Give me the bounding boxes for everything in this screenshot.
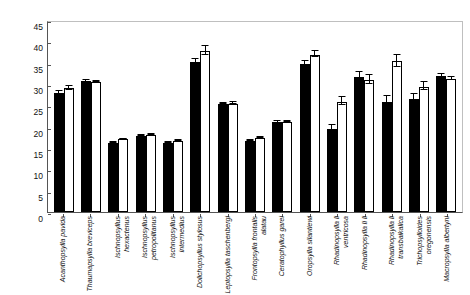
error-bar-cap-top <box>328 124 335 125</box>
plot-area: 051015202530354045 <box>47 21 463 213</box>
error-bar <box>92 80 99 83</box>
error-bar <box>202 45 209 54</box>
bar-group <box>323 22 350 212</box>
error-bar <box>328 124 335 133</box>
x-axis-label: Thaumapsylla breviceps <box>86 216 95 294</box>
y-axis-tick-mark <box>48 86 51 87</box>
error-bar-cap-bottom <box>256 137 263 138</box>
bar-group <box>433 22 460 212</box>
bar-white <box>228 104 238 212</box>
y-axis-tick-mark <box>48 107 51 108</box>
error-bar-cap-bottom <box>219 103 226 104</box>
y-axis-tick-mark <box>48 193 51 194</box>
bar-group <box>214 22 241 212</box>
error-bar <box>229 101 236 104</box>
x-axis-label-cell: Dolichopsyllus stylosus <box>186 214 213 295</box>
error-bar-stem <box>396 54 397 68</box>
x-axis-label-cell: Ischnopsyllus hexactenus <box>104 214 131 295</box>
bar-group <box>351 22 378 212</box>
error-bar <box>164 141 171 143</box>
error-bar-cap-bottom <box>147 134 154 135</box>
bar-group <box>159 22 186 212</box>
error-bar-cap-bottom <box>137 135 144 136</box>
error-bar-cap-bottom <box>229 103 236 104</box>
error-bar-cap-top <box>65 85 72 86</box>
error-bar-cap-bottom <box>82 81 89 82</box>
x-axis-label-cell: Ceratophyllus garei <box>269 214 296 295</box>
bar-white <box>255 138 265 212</box>
x-axis-label: Rhadinopsylla li li <box>361 216 370 294</box>
bar-black <box>327 129 337 212</box>
error-bar-cap-bottom <box>383 107 390 108</box>
error-bar <box>393 54 400 68</box>
error-bar <box>120 138 127 140</box>
bar-group <box>378 22 405 212</box>
error-bar <box>338 96 345 105</box>
bar-black <box>245 141 255 212</box>
bar-black <box>436 76 446 212</box>
bar-black <box>108 143 118 212</box>
x-axis-label-cell: Frontopsylla frontalis alatau <box>241 214 268 295</box>
error-bar-cap-bottom <box>174 140 181 141</box>
error-bar-cap-top <box>448 76 455 77</box>
bar-black <box>272 122 282 212</box>
x-axis-label-cell: Oropsylla silantiewi <box>296 214 323 295</box>
error-bar-cap-bottom <box>65 89 72 90</box>
bar-group <box>269 22 296 212</box>
error-bar <box>65 85 72 90</box>
error-bar-cap-bottom <box>328 132 335 133</box>
bar-white <box>392 61 402 212</box>
error-bar-cap-bottom <box>164 142 171 143</box>
error-bar-cap-bottom <box>301 66 308 67</box>
error-bar-cap-top <box>438 73 445 74</box>
error-bar <box>256 136 263 139</box>
x-axis-label: Trichopsylloides oregonensis <box>416 216 433 294</box>
y-axis-tick-mark <box>48 171 51 172</box>
error-bar <box>366 74 373 83</box>
bar-group <box>77 22 104 212</box>
error-bar <box>55 90 62 94</box>
y-axis-tick-mark <box>48 22 51 23</box>
x-axis-label-cell: Ischnopsyllus petropolitanus <box>131 214 158 295</box>
error-bar <box>246 139 253 142</box>
bar-black <box>218 104 228 212</box>
bar-black <box>300 64 310 212</box>
x-axis-label: Macropsylla albertyni <box>443 216 452 294</box>
x-axis-label: Oropsylla silantiewi <box>306 216 315 294</box>
x-axis-label-cell: Acanthopsylla pavida <box>49 214 76 295</box>
error-bar-cap-bottom <box>448 79 455 80</box>
error-bar-cap-bottom <box>110 142 117 143</box>
bar-white <box>200 51 210 212</box>
bar-black <box>163 143 173 212</box>
error-bar <box>311 50 318 58</box>
error-bar-cap-bottom <box>120 138 127 139</box>
error-bar-cap-bottom <box>202 54 209 55</box>
bar-group <box>241 22 268 212</box>
bar-group <box>296 22 323 212</box>
bar-white <box>173 141 183 212</box>
bar-white <box>337 102 347 213</box>
error-bar <box>410 93 417 102</box>
bar-group <box>105 22 132 212</box>
x-axis-label-cell: Thaumapsylla breviceps <box>76 214 103 295</box>
bar-black <box>409 99 419 212</box>
error-bar-cap-bottom <box>311 56 318 57</box>
error-bar-cap-bottom <box>92 81 99 82</box>
bar-group <box>187 22 214 212</box>
error-bar-cap-bottom <box>356 80 363 81</box>
error-bar-cap-bottom <box>338 104 345 105</box>
error-bar-cap-bottom <box>192 63 199 64</box>
x-axis-label-cell: Macropsylla albertyni <box>434 214 461 295</box>
error-bar-cap-top <box>366 74 373 75</box>
x-axis-label: Dolichopsyllus stylosus <box>196 216 205 294</box>
error-bar-cap-top <box>192 58 199 59</box>
x-axis-label: Rhadinopsylla li transbaikalica <box>388 216 405 294</box>
error-bar-cap-top <box>311 50 318 51</box>
error-bar-cap-top <box>338 96 345 97</box>
error-bar-cap-bottom <box>420 89 427 90</box>
error-bar <box>448 76 455 80</box>
bar-black <box>81 81 91 212</box>
error-bar-cap-top <box>55 90 62 91</box>
bar-white <box>364 80 374 212</box>
bar-white <box>91 82 101 212</box>
